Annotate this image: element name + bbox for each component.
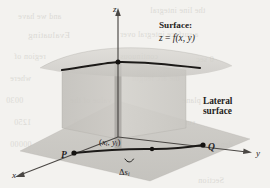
paren-close: ) xyxy=(117,137,120,147)
lateral-surface-label: Lateral surface xyxy=(203,96,232,117)
x-axis-label: x xyxy=(12,170,16,180)
lateral-line-2: surface xyxy=(203,106,232,116)
point-q-label: Q xyxy=(208,142,215,153)
diagram-canvas xyxy=(0,0,270,188)
arc-length-label: Δsi xyxy=(119,168,129,178)
surface-equation: z = f(x, y) xyxy=(159,33,195,44)
sample-point-label: (xi, yi) xyxy=(99,138,120,148)
surface-eq-equals: = xyxy=(163,33,173,43)
lateral-line-1: Lateral xyxy=(203,96,232,106)
lateral-surface-figure: and we havethe line integralEvaluatinga … xyxy=(0,0,270,188)
surface-eq-args: (x, y) xyxy=(175,33,195,43)
point-p-dot xyxy=(71,150,76,155)
sample-point-dot xyxy=(150,147,154,151)
arc-sub: i xyxy=(128,171,130,177)
z-axis-label: z xyxy=(113,4,117,14)
surface-label: Surface: xyxy=(159,20,192,30)
point-q-dot xyxy=(200,142,205,147)
y-axis-label: y xyxy=(256,148,260,158)
point-p-label: P xyxy=(61,150,67,161)
